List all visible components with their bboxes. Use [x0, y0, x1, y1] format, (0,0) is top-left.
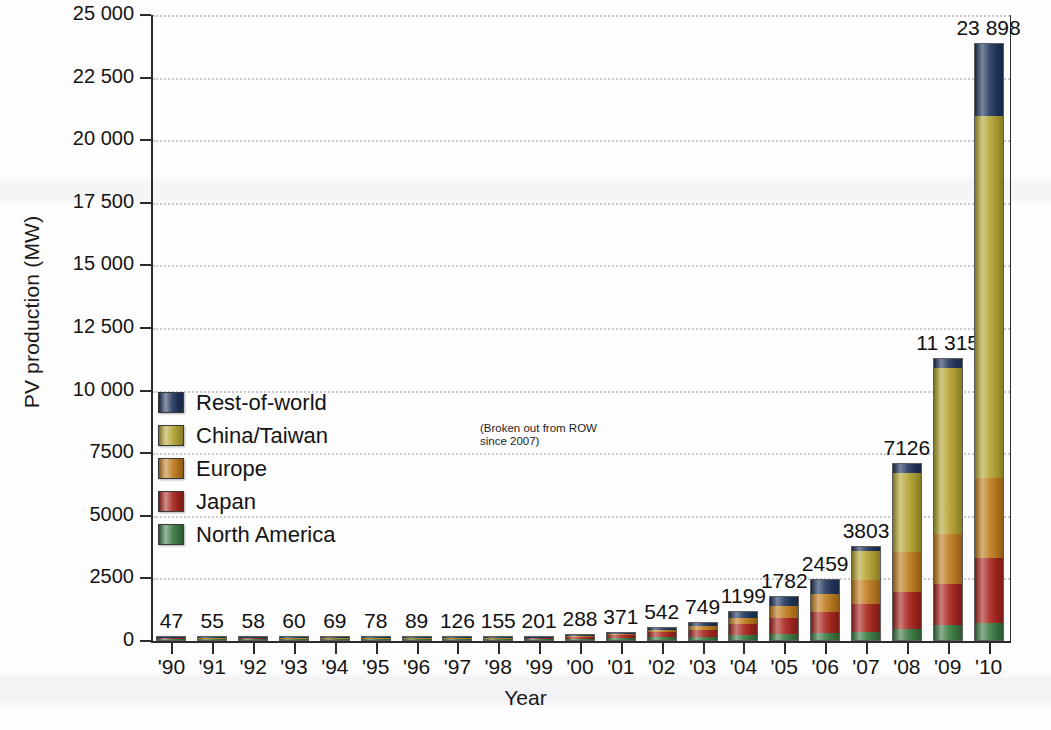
- stacked-bar[interactable]: [810, 579, 840, 641]
- y-tick-label: 0: [123, 628, 134, 651]
- stacked-bar[interactable]: [728, 611, 758, 641]
- legend-item[interactable]: Europe: [158, 452, 488, 485]
- y-tick-label: 5000: [90, 503, 135, 526]
- bar-group[interactable]: 542: [647, 15, 677, 641]
- legend-label: North America: [196, 522, 335, 548]
- y-tick-label: 7500: [90, 440, 135, 463]
- x-tick-mark: [294, 643, 296, 654]
- y-tick-label: 20 000: [73, 127, 134, 150]
- x-tick-label: '92: [239, 655, 266, 679]
- stacked-bar[interactable]: [402, 636, 432, 641]
- legend-item[interactable]: Rest-of-world: [158, 386, 488, 419]
- bar-group[interactable]: 11 315: [933, 15, 963, 641]
- x-axis-tick-labels: '90'91'92'93'94'95'96'97'98'99'00'01'02'…: [151, 655, 1009, 685]
- bar-value-label: 3803: [843, 519, 890, 543]
- stacked-bar[interactable]: [442, 636, 472, 641]
- bar-segment-rest-of-world: [934, 359, 962, 368]
- legend-item[interactable]: China/Taiwan: [158, 419, 488, 452]
- stacked-bar[interactable]: [851, 546, 881, 641]
- y-tick-label: 22 500: [73, 65, 134, 88]
- bar-group[interactable]: 201: [524, 15, 554, 641]
- bar-segment-north-america: [239, 639, 267, 640]
- bar-segment-europe: [566, 636, 594, 637]
- bar-group[interactable]: 371: [606, 15, 636, 641]
- x-tick-label: '02: [648, 655, 675, 679]
- bar-segment-japan: [280, 638, 308, 639]
- x-tick-label: '91: [199, 655, 226, 679]
- bar-segment-china-taiwan: [975, 116, 1003, 478]
- bar-segment-europe: [893, 552, 921, 592]
- stacked-bar[interactable]: [892, 463, 922, 641]
- bar-segment-rest-of-world: [362, 637, 390, 638]
- bar-segment-north-america: [157, 639, 185, 640]
- bar-segment-rest-of-world: [729, 612, 757, 618]
- x-tick-mark: [989, 643, 991, 654]
- bar-segment-rest-of-world: [566, 635, 594, 636]
- bar-group[interactable]: 1782: [769, 15, 799, 641]
- stacked-bar[interactable]: [524, 636, 554, 641]
- legend-item[interactable]: North America: [158, 518, 488, 551]
- bar-value-label: 1782: [761, 569, 808, 593]
- bar-segment-europe: [321, 638, 349, 639]
- stacked-bar[interactable]: [361, 636, 391, 641]
- pv-production-stacked-bar-chart: PV production (MW) 025005000750010 00012…: [0, 0, 1051, 730]
- bar-segment-north-america: [811, 633, 839, 640]
- bar-value-label: 89: [405, 609, 428, 633]
- stacked-bar[interactable]: [769, 596, 799, 641]
- x-tick-mark: [703, 643, 705, 654]
- bar-segment-europe: [934, 534, 962, 583]
- stacked-bar[interactable]: [974, 43, 1004, 641]
- legend-label: China/Taiwan: [196, 423, 328, 449]
- stacked-bar[interactable]: [483, 636, 513, 641]
- stacked-bar[interactable]: [688, 622, 718, 641]
- bar-group[interactable]: 1199: [728, 15, 758, 641]
- bar-segment-europe: [484, 638, 512, 639]
- bar-segment-japan: [443, 638, 471, 639]
- y-axis-ticks: 025005000750010 00012 50015 00017 50020 …: [0, 0, 151, 658]
- bar-segment-rest-of-world: [280, 637, 308, 638]
- legend-swatch-north-america: [158, 524, 184, 545]
- bar-segment-japan: [484, 638, 512, 639]
- bar-segment-europe: [729, 618, 757, 624]
- bar-group[interactable]: 23 898: [974, 15, 1004, 641]
- bar-value-label: 78: [364, 609, 387, 633]
- bar-segment-north-america: [729, 635, 757, 640]
- bar-group[interactable]: 288: [565, 15, 595, 641]
- stacked-bar[interactable]: [197, 636, 227, 641]
- bar-value-label: 155: [481, 609, 516, 633]
- bar-group[interactable]: 7126: [892, 15, 922, 641]
- stacked-bar[interactable]: [565, 634, 595, 641]
- stacked-bar[interactable]: [606, 632, 636, 641]
- stacked-bar[interactable]: [156, 636, 186, 641]
- y-tick-mark: [140, 202, 151, 204]
- bar-segment-rest-of-world: [770, 597, 798, 606]
- bar-segment-europe: [362, 638, 390, 639]
- x-tick-label: '95: [362, 655, 389, 679]
- x-tick-mark: [253, 643, 255, 654]
- stacked-bar[interactable]: [238, 636, 268, 641]
- bar-segment-north-america: [648, 637, 676, 640]
- bar-segment-north-america: [689, 637, 717, 640]
- bar-value-label: 47: [160, 609, 183, 633]
- x-tick-mark: [948, 643, 950, 654]
- bar-group[interactable]: 2459: [810, 15, 840, 641]
- legend-item[interactable]: Japan: [158, 485, 488, 518]
- x-tick-mark: [621, 643, 623, 654]
- x-tick-label: '96: [403, 655, 430, 679]
- y-tick-mark: [140, 515, 151, 517]
- x-tick-label: '08: [893, 655, 920, 679]
- stacked-bar[interactable]: [933, 358, 963, 641]
- bar-group[interactable]: 3803: [851, 15, 881, 641]
- bar-segment-japan: [811, 612, 839, 633]
- y-tick-label: 12 500: [73, 315, 134, 338]
- bar-value-label: 23 898: [956, 16, 1020, 40]
- bar-segment-japan: [893, 592, 921, 629]
- stacked-bar[interactable]: [320, 636, 350, 641]
- bar-group[interactable]: 749: [688, 15, 718, 641]
- stacked-bar[interactable]: [279, 636, 309, 641]
- stacked-bar[interactable]: [647, 627, 677, 641]
- x-tick-mark: [907, 643, 909, 654]
- x-tick-label: '90: [158, 655, 185, 679]
- bar-segment-north-america: [484, 639, 512, 640]
- y-tick-mark: [140, 390, 151, 392]
